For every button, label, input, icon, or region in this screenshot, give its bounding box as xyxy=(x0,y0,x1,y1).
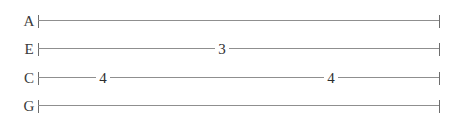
tab-string-row-e: E3 xyxy=(0,37,465,61)
start-barline xyxy=(38,15,39,28)
end-barline xyxy=(439,15,440,28)
start-barline xyxy=(38,43,39,56)
fret-number[interactable]: 3 xyxy=(215,37,229,61)
string-tuning-label-a: A xyxy=(22,9,36,33)
end-barline xyxy=(439,100,440,113)
tab-string-row-c: C44 xyxy=(0,66,465,90)
string-line xyxy=(38,20,440,21)
end-barline xyxy=(439,43,440,56)
start-barline xyxy=(38,72,39,85)
string-tuning-label-g: G xyxy=(22,94,36,118)
fret-number[interactable]: 4 xyxy=(96,66,110,90)
fret-number[interactable]: 4 xyxy=(324,66,338,90)
tab-string-row-g: G xyxy=(0,94,465,118)
string-tuning-label-e: E xyxy=(22,37,36,61)
tablature-staff: AE3C44G xyxy=(0,0,465,130)
tab-string-row-a: A xyxy=(0,9,465,33)
string-line xyxy=(38,48,440,49)
string-line xyxy=(38,105,440,106)
end-barline xyxy=(439,72,440,85)
start-barline xyxy=(38,100,39,113)
string-tuning-label-c: C xyxy=(22,66,36,90)
